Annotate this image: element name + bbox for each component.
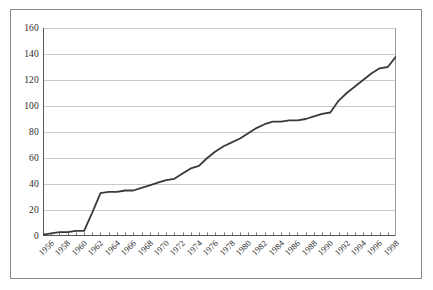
line-chart-svg (43, 28, 396, 236)
chart-figure: 020406080100120140160 195619581960196219… (0, 0, 433, 290)
x-axis-tick-label: 1988 (299, 238, 319, 258)
y-axis-tick-label: 60 (29, 153, 39, 163)
x-axis-tick-label: 1984 (266, 238, 286, 258)
x-axis-tick-label: 1992 (332, 238, 352, 258)
y-axis-tick-label: 160 (24, 23, 39, 33)
gridlines (43, 29, 396, 211)
x-axis-tick-label: 1972 (168, 238, 188, 258)
y-axis-tick-label: 80 (29, 127, 39, 137)
x-axis-tick-label: 1982 (250, 238, 270, 258)
y-axis-tick-label: 0 (34, 231, 39, 241)
x-axis-tick-label: 1976 (201, 238, 221, 258)
x-axis-tick-label: 1974 (184, 238, 204, 258)
plot-area (43, 28, 396, 236)
y-axis-tick-label: 20 (29, 205, 39, 215)
x-axis-tick-label: 1966 (119, 238, 139, 258)
x-axis-tick-label: 1994 (349, 238, 369, 258)
y-axis-tick-label: 100 (24, 101, 39, 111)
data-series-line (43, 57, 396, 235)
x-axis-tick-label: 1986 (283, 238, 303, 258)
x-axis-tick-label: 1990 (316, 238, 336, 258)
x-axis-tick-label: 1962 (86, 238, 106, 258)
x-axis-tick-label: 1968 (135, 238, 155, 258)
x-axis-tick-label: 1970 (151, 238, 171, 258)
x-axis-tick-labels: 1956195819601962196419661968197019721974… (43, 236, 396, 284)
y-axis-tick-label: 140 (24, 49, 39, 59)
x-axis-tick-label: 1996 (365, 238, 385, 258)
y-axis-tick-label: 120 (24, 75, 39, 85)
x-axis-tick-label: 1958 (53, 238, 73, 258)
y-axis-tick-label: 40 (29, 179, 39, 189)
x-axis-tick-label: 1978 (217, 238, 237, 258)
x-axis-tick-label: 1964 (102, 238, 122, 258)
x-axis-tick-label: 1980 (234, 238, 254, 258)
y-axis-tick-labels: 020406080100120140160 (12, 28, 39, 236)
x-axis-tick-label: 1960 (69, 238, 89, 258)
